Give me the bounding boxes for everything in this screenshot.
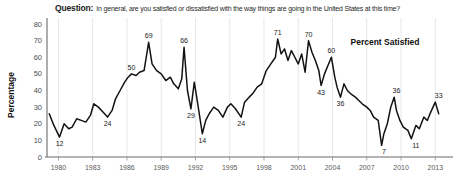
y-tick-label: 80 bbox=[34, 20, 42, 29]
x-tick-label: 1980 bbox=[51, 164, 67, 171]
data-point-label: 71 bbox=[274, 29, 282, 36]
data-point-label: 36 bbox=[337, 100, 345, 107]
x-tick-label: 2007 bbox=[359, 164, 375, 171]
y-tick-label: 70 bbox=[34, 36, 42, 45]
data-point-label: 60 bbox=[327, 47, 335, 54]
data-point-label: 14 bbox=[198, 137, 206, 144]
data-point-label: 50 bbox=[128, 64, 136, 71]
data-point-label: 7 bbox=[382, 148, 386, 155]
line-chart-plot: 01020304050607080 1980198319861989199219… bbox=[0, 0, 455, 182]
data-point-label: 36 bbox=[393, 87, 401, 94]
x-tick-label: 1995 bbox=[222, 164, 238, 171]
x-tick-label: 1983 bbox=[85, 164, 101, 171]
data-point-label: 11 bbox=[412, 142, 419, 149]
data-point-label: 69 bbox=[145, 32, 153, 39]
x-tick-label: 2004 bbox=[325, 164, 341, 171]
series-legend-label: Percent Satisfied bbox=[351, 37, 420, 47]
y-tick-label: 10 bbox=[34, 136, 42, 145]
x-tick-label: 2010 bbox=[393, 164, 409, 171]
x-tick-label: 2001 bbox=[290, 164, 306, 171]
y-tick-label: 60 bbox=[34, 53, 42, 62]
x-tick-label: 1992 bbox=[188, 164, 204, 171]
x-tick-label: 1986 bbox=[119, 164, 135, 171]
chart-container: Question: In general, are you satisfied … bbox=[0, 0, 455, 182]
data-point-label: 29 bbox=[187, 112, 195, 119]
y-tick-label: 40 bbox=[34, 86, 42, 95]
data-point-label: 70 bbox=[305, 31, 313, 38]
series-path bbox=[49, 39, 438, 145]
data-point-label: 24 bbox=[104, 120, 112, 127]
data-point-label: 12 bbox=[56, 140, 64, 147]
percent-satisfied-series bbox=[49, 39, 438, 145]
y-tick-label: 20 bbox=[34, 119, 42, 128]
x-axis: 1980198319861989199219951998200120042007… bbox=[45, 157, 453, 171]
y-tick-label: 50 bbox=[34, 69, 42, 78]
data-point-label: 66 bbox=[180, 37, 188, 44]
data-point-label: 43 bbox=[317, 89, 325, 96]
x-tick-label: 1989 bbox=[153, 164, 169, 171]
data-point-label: 33 bbox=[435, 92, 443, 99]
y-tick-label: 0 bbox=[38, 153, 42, 162]
y-axis: 01020304050607080 bbox=[34, 18, 47, 162]
data-point-label: 24 bbox=[237, 120, 245, 127]
data-point-labels: 122450696629142471704360367361133 bbox=[56, 29, 443, 155]
x-tick-label: 2013 bbox=[428, 164, 444, 171]
x-tick-label: 1998 bbox=[256, 164, 272, 171]
y-tick-label: 30 bbox=[34, 103, 42, 112]
y-axis-title: Percentage bbox=[6, 72, 16, 118]
